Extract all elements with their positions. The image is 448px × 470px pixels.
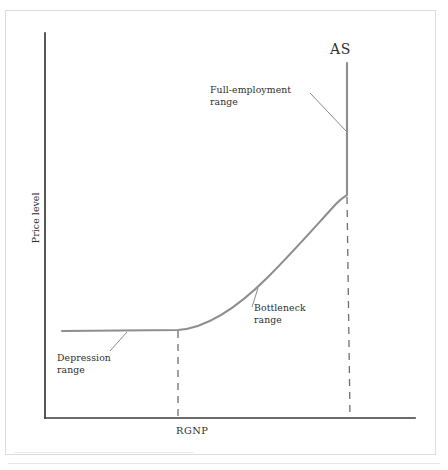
aggregate-supply-figure: AS Full-employment range Bottleneck rang… bbox=[0, 0, 448, 470]
y-axis-label: Price level bbox=[30, 178, 42, 258]
annotation-bottleneck-range: Bottleneck range bbox=[254, 302, 306, 325]
dashed-line-full-employment-output bbox=[347, 197, 350, 417]
annotation-full-employment-range: Full-employment range bbox=[210, 84, 291, 107]
as-curve-label: AS bbox=[330, 41, 351, 59]
annotation-depression-range: Depression range bbox=[57, 352, 111, 375]
leader-line-full-employment bbox=[310, 93, 347, 132]
chart-canvas bbox=[0, 0, 448, 470]
x-axis-label: RGNP bbox=[176, 425, 208, 437]
as-curve bbox=[62, 63, 347, 331]
leader-line-depression bbox=[110, 332, 127, 351]
